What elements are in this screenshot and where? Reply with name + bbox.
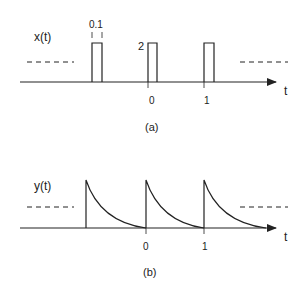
- decay-3: [204, 180, 266, 228]
- caption-b: (b): [143, 266, 156, 278]
- panel-b: y(t) t 0 1 (b): [20, 179, 288, 278]
- pulse-height-label: 2: [138, 40, 144, 52]
- panel-a: x(t) 0.1 2 t 0 1 (a): [20, 19, 288, 133]
- t-axis-label: t: [284, 84, 288, 98]
- pulse-1: [92, 43, 102, 82]
- tick-label-1: 1: [202, 241, 208, 252]
- caption-a: (a): [145, 121, 158, 133]
- y-signal-label: y(t): [34, 179, 51, 193]
- pulse-3: [204, 43, 214, 82]
- decay-1: [86, 180, 146, 228]
- pulse-2: [148, 43, 157, 82]
- tick-label-0: 0: [143, 241, 149, 252]
- x-signal-label: x(t): [34, 30, 51, 44]
- t-axis-label: t: [284, 230, 288, 244]
- tick-label-1: 1: [204, 95, 210, 106]
- diagram: x(t) 0.1 2 t 0 1 (a) y(t) t 0 1 (b): [0, 0, 305, 291]
- decay-2: [146, 180, 204, 228]
- pulse-width-label: 0.1: [89, 19, 103, 30]
- tick-label-0: 0: [149, 95, 155, 106]
